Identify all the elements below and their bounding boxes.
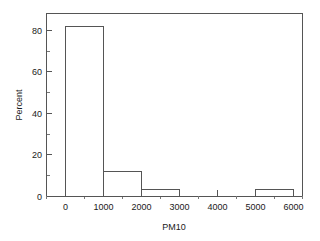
histogram-figure: 0 20 40 60 80 Percent <box>0 0 320 241</box>
y-tick-label: 60 <box>32 67 42 77</box>
x-tick-label: 0 <box>63 202 68 212</box>
y-tick-label: 80 <box>32 26 42 36</box>
y-tick-label: 20 <box>32 150 42 160</box>
histogram-bar <box>142 190 180 196</box>
x-tick-label: 3000 <box>169 202 189 212</box>
figure-background <box>0 0 320 241</box>
x-axis-title: PM10 <box>162 222 186 232</box>
y-tick-label: 40 <box>32 109 42 119</box>
x-tick-label: 1000 <box>93 202 113 212</box>
histogram-bar <box>66 27 104 196</box>
x-tick-label: 6000 <box>283 202 303 212</box>
x-tick-label: 4000 <box>207 202 227 212</box>
x-tick-label: 5000 <box>245 202 265 212</box>
x-tick-label: 2000 <box>131 202 151 212</box>
y-tick-label: 0 <box>37 192 42 202</box>
histogram-bar <box>256 190 294 196</box>
y-axis-title: Percent <box>14 89 24 121</box>
histogram-bar <box>104 171 142 196</box>
chart-canvas: 0 20 40 60 80 Percent <box>0 0 320 241</box>
